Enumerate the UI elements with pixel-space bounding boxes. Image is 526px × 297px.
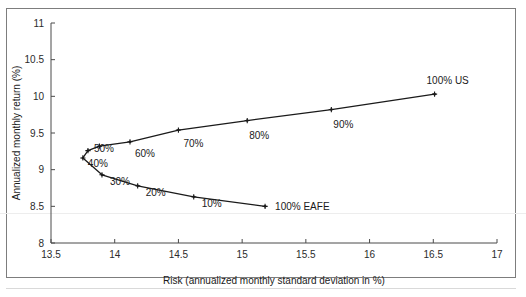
- data-point-dot: [177, 129, 180, 132]
- y-tick-label: 9.5: [30, 128, 44, 139]
- y-tick-label: 8.5: [30, 201, 44, 212]
- point-annotation: 30%: [110, 176, 130, 187]
- data-point-dot: [87, 149, 90, 152]
- efficient-frontier-chart: 13.51414.51515.51616.517 88.599.51010.51…: [0, 0, 526, 297]
- y-tick-label: 11: [34, 18, 45, 29]
- data-point-dot: [264, 205, 267, 208]
- chart-page: 13.51414.51515.51616.517 88.599.51010.51…: [0, 0, 526, 297]
- y-tick-label: 9: [38, 164, 44, 175]
- x-tick-label: 17: [491, 249, 503, 260]
- point-annotation: 100% EAFE: [275, 201, 330, 212]
- x-tick-label: 14: [109, 249, 121, 260]
- point-annotation: 90%: [333, 119, 353, 130]
- data-point-dot: [246, 119, 249, 122]
- data-point-dot: [129, 141, 132, 144]
- point-annotation: 20%: [146, 187, 166, 198]
- point-annotation: 50%: [94, 143, 114, 154]
- data-point-dot: [330, 108, 333, 111]
- y-tick-label: 10.5: [25, 54, 45, 65]
- x-axis-ticks: 13.51414.51515.51616.517: [41, 239, 503, 260]
- point-annotation: 100% US: [427, 75, 470, 86]
- x-tick-label: 15.5: [296, 249, 316, 260]
- y-tick-label: 10: [33, 91, 45, 102]
- data-point-labels: 100% EAFE10%20%30%40%50%60%70%80%90%100%…: [88, 75, 469, 212]
- x-tick-label: 13.5: [41, 249, 61, 260]
- point-annotation: 40%: [88, 158, 108, 169]
- x-tick-label: 15: [237, 249, 249, 260]
- y-axis-ticks: 88.599.51010.511: [25, 18, 55, 249]
- data-point-dot: [101, 174, 104, 177]
- x-tick-label: 16: [364, 249, 376, 260]
- point-annotation: 70%: [183, 138, 203, 149]
- point-annotation: 60%: [135, 148, 155, 159]
- data-markers: [80, 92, 437, 209]
- x-tick-label: 16.5: [424, 249, 444, 260]
- point-annotation: 80%: [249, 130, 269, 141]
- y-tick-label: 8: [38, 238, 44, 249]
- x-tick-label: 14.5: [169, 249, 189, 260]
- data-point-dot: [433, 93, 436, 96]
- x-axis-title: Risk (annualized monthly standard deviat…: [163, 275, 385, 286]
- point-annotation: 10%: [202, 198, 222, 209]
- axes: [51, 23, 497, 243]
- axis-spines: [51, 23, 497, 243]
- y-axis-title: Annualized monthly return (%): [11, 66, 22, 201]
- data-point-dot: [192, 196, 195, 199]
- data-point-dot: [136, 185, 139, 188]
- data-point-dot: [82, 157, 85, 160]
